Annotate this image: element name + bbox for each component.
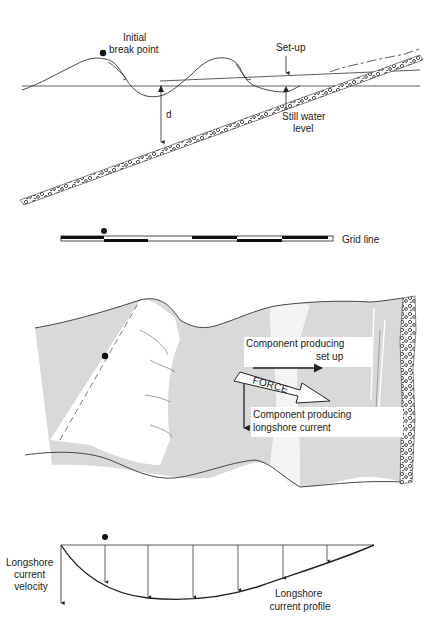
velocity-axis-label: Longshore current velocity	[6, 557, 56, 592]
plan-view-panel: Component producing set up FORCE Compone…	[25, 296, 416, 487]
breaker-curl-1	[108, 62, 126, 80]
grid-line-label: Grid line	[342, 234, 380, 245]
grid-break-point-dot	[101, 228, 107, 234]
current-profile-label: Longshore current profile	[269, 588, 331, 612]
grid-line-panel: Grid line	[61, 228, 380, 245]
beach-profile-panel: Initial break point d Set-up Still water…	[20, 32, 423, 205]
break-point-dot	[100, 50, 106, 56]
gravel-beach	[400, 296, 416, 484]
depth-label: d	[166, 109, 172, 120]
initial-break-point-label: Initial break point	[109, 32, 159, 55]
velocity-break-point-dot	[102, 534, 108, 540]
velocity-profile-panel: Longshore current velocity Longshore cur…	[6, 534, 374, 612]
beach-slope	[20, 55, 423, 205]
setup-label: Set-up	[276, 42, 306, 53]
longshore-current-diagram: Initial break point d Set-up Still water…	[0, 0, 440, 639]
still-water-level-label: Still water level	[282, 111, 328, 134]
plan-break-point-dot	[102, 353, 108, 359]
setup-arrow-up-head	[283, 86, 289, 92]
